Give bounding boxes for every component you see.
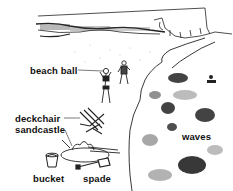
spade-drawing <box>76 158 110 169</box>
sand-texture <box>75 45 151 63</box>
label-beach-ball: beach ball <box>30 66 77 76</box>
label-waves: waves <box>181 132 212 142</box>
label-bucket: bucket <box>33 174 64 184</box>
deckchair-drawing <box>80 108 104 134</box>
label-spade: spade <box>83 174 111 184</box>
woman-figure <box>100 68 111 103</box>
dune-shading <box>40 24 150 31</box>
label-deckchair: deckchair <box>15 114 60 124</box>
swimmer <box>207 75 216 83</box>
man-figure <box>118 61 130 84</box>
label-sandcastle: sandcastle <box>15 125 65 135</box>
bucket-drawing <box>46 153 58 167</box>
sandcastle-drawing <box>61 140 120 162</box>
waves-area <box>142 73 223 181</box>
beach-illustration <box>0 0 233 191</box>
leader-lines <box>64 70 103 146</box>
